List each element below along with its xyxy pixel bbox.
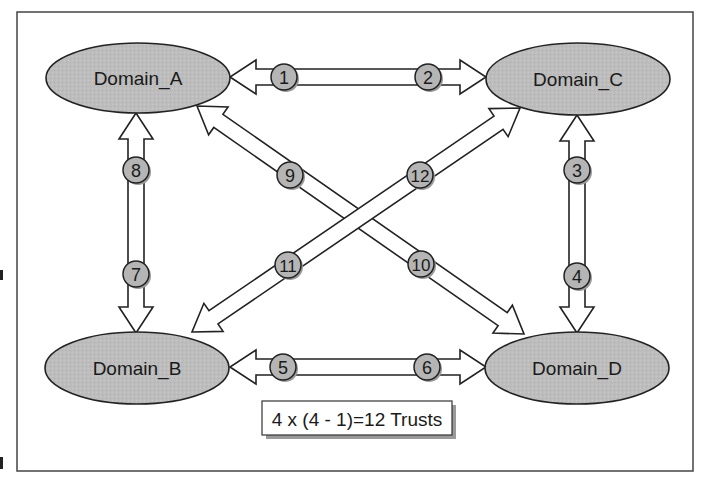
diagram-canvas: Domain_A Domain_C Domain_B Domain_D 1234… [0,0,705,479]
trust-number: 3 [572,161,582,181]
trust-number: 7 [131,265,141,285]
trust-number: 9 [285,166,295,186]
domain-d-label: Domain_D [532,358,622,380]
trust-number: 4 [572,267,582,287]
trust-number: 8 [131,161,141,181]
formula-box: 4 x (4 - 1)=12 Trusts [262,401,456,439]
trust-number: 5 [278,358,288,378]
domain-b-label: Domain_B [93,358,182,380]
domain-a-node: Domain_A [46,43,230,113]
trust-number: 10 [412,256,431,275]
domain-b-node: Domain_B [45,332,229,404]
domain-c-node: Domain_C [486,43,670,115]
trust-number: 6 [422,358,432,378]
trust-number: 2 [423,68,433,88]
domain-d-node: Domain_D [485,332,669,404]
trust-number: 11 [279,257,297,276]
crop-mark [0,270,3,280]
domain-c-label: Domain_C [533,69,623,91]
trust-diagram: Domain_A Domain_C Domain_B Domain_D 1234… [0,0,705,479]
trust-number: 12 [411,167,430,186]
crop-mark [0,457,3,469]
domain-a-label: Domain_A [94,68,183,90]
trust-number: 1 [279,68,289,88]
formula-text: 4 x (4 - 1)=12 Trusts [272,409,443,430]
